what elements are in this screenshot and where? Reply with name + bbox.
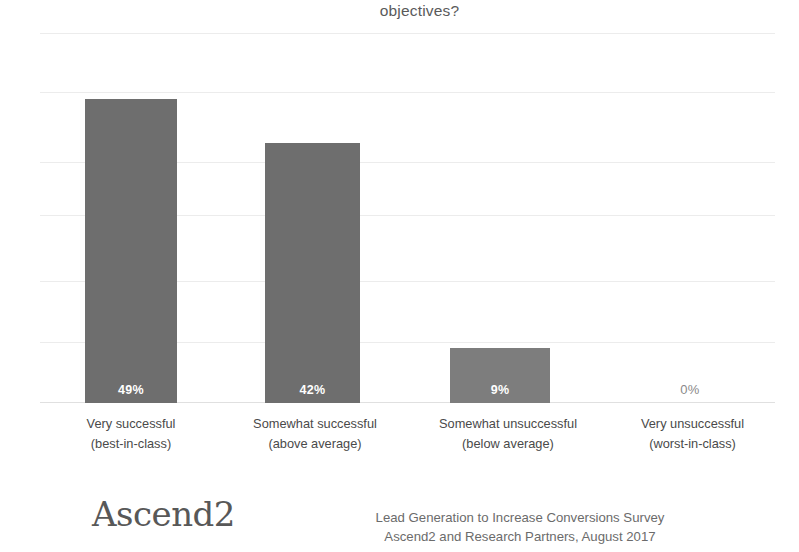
category-label-very-successful: Very successful (best-in-class) xyxy=(51,414,211,454)
bar[interactable]: 49% xyxy=(85,99,177,403)
footer: Ascend2 Lead Generation to Increase Conv… xyxy=(0,486,799,552)
bar-slot: 9% xyxy=(450,33,550,403)
bar[interactable]: 42% xyxy=(265,143,360,403)
category-label-line2: (below average) xyxy=(408,434,608,454)
plot-area: 49% 42% 9% 0% xyxy=(40,33,775,403)
bar-value-label: 0% xyxy=(640,382,740,397)
category-label-line2: (best-in-class) xyxy=(51,434,211,454)
chart-title: objectives? xyxy=(0,2,799,20)
ascend2-logo: Ascend2 xyxy=(92,494,235,534)
bar-series: 49% 42% 9% 0% xyxy=(40,33,775,403)
bar-slot: 0% xyxy=(640,33,740,403)
category-label-line2: (worst-in-class) xyxy=(610,434,775,454)
bar-value-label: 9% xyxy=(450,383,550,397)
footer-caption-line1: Lead Generation to Increase Conversions … xyxy=(376,510,665,525)
bar-value-label: 42% xyxy=(265,383,360,397)
category-label-line1: Somewhat unsuccessful xyxy=(439,416,577,431)
bar[interactable]: 9% xyxy=(450,348,550,403)
category-label-line1: Somewhat successful xyxy=(253,416,377,431)
bar-slot: 49% xyxy=(85,33,177,403)
bar-slot: 42% xyxy=(265,33,360,403)
category-label-somewhat-successful: Somewhat successful (above average) xyxy=(220,414,410,454)
bar-value-label: 49% xyxy=(85,383,177,397)
category-label-very-unsuccessful: Very unsuccessful (worst-in-class) xyxy=(610,414,775,454)
category-label-line1: Very successful xyxy=(87,416,176,431)
category-label-somewhat-unsuccessful: Somewhat unsuccessful (below average) xyxy=(408,414,608,454)
footer-caption-line2: Ascend2 and Research Partners, August 20… xyxy=(310,527,730,546)
category-label-line2: (above average) xyxy=(220,434,410,454)
footer-caption: Lead Generation to Increase Conversions … xyxy=(310,508,730,546)
category-label-line1: Very unsuccessful xyxy=(641,416,744,431)
category-axis: Very successful (best-in-class) Somewhat… xyxy=(40,414,775,470)
